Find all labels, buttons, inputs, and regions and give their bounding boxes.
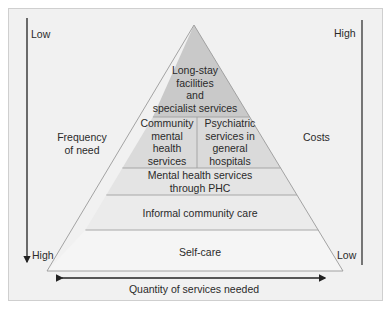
- label-line: hospitals: [198, 155, 262, 168]
- label-line: services: [136, 155, 198, 168]
- label-line: health: [136, 142, 198, 155]
- layer-informal-label: Informal community care: [110, 207, 290, 220]
- label-line: general: [198, 142, 262, 155]
- layer-psychiatric-label: Psychiatric services in general hospital…: [198, 117, 262, 167]
- label-line: and: [150, 89, 240, 102]
- label-line: Psychiatric: [198, 117, 262, 130]
- label-line: Long-stay: [150, 64, 240, 77]
- layer-phc-label: Mental health services through PHC: [130, 169, 270, 194]
- label-line: Self-care: [110, 246, 290, 259]
- label-line: services in: [198, 130, 262, 143]
- layer-top-label: Long-stay facilities and specialist serv…: [150, 64, 240, 114]
- layer-selfcare-label: Self-care: [110, 246, 290, 259]
- frequency-low-label: Low: [31, 28, 50, 41]
- cost-low-label: Low: [337, 249, 356, 262]
- label-line: Community: [136, 117, 198, 130]
- label-line: Informal community care: [110, 207, 290, 220]
- label-line: of need: [52, 144, 112, 157]
- cost-high-label: High: [334, 27, 356, 40]
- label-line: facilities: [150, 77, 240, 90]
- label-line: Frequency: [52, 131, 112, 144]
- quantity-axis-label: Quantity of services needed: [94, 283, 294, 296]
- label-line: mental: [136, 130, 198, 143]
- label-line: specialist services: [150, 102, 240, 115]
- frequency-high-label: High: [32, 249, 54, 262]
- label-line: Mental health services: [130, 169, 270, 182]
- frequency-axis-label: Frequency of need: [52, 131, 112, 156]
- label-line: through PHC: [130, 182, 270, 195]
- cost-axis-label: Costs: [303, 131, 330, 144]
- layer-community-label: Community mental health services: [136, 117, 198, 167]
